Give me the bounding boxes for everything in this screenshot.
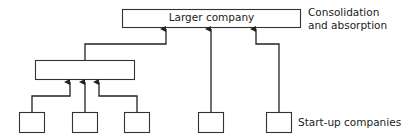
consolidation-line-2: and absorption	[308, 19, 387, 32]
startup-box	[267, 113, 292, 133]
larger-company-label: Larger company	[122, 11, 301, 23]
connector-arrow	[256, 29, 279, 112]
startup-box	[199, 113, 224, 133]
consolidation-line-1: Consolidation	[308, 6, 387, 19]
startup-box	[73, 113, 98, 133]
startups-annotation: Start-up companies	[298, 116, 401, 129]
startup-box	[20, 113, 45, 133]
startup-box	[125, 113, 150, 133]
connector-arrow	[85, 29, 166, 60]
consolidation-annotation: Consolidation and absorption	[308, 6, 387, 32]
merged-company-box	[36, 61, 135, 80]
connector-arrow	[99, 82, 137, 112]
connector-arrow	[32, 82, 70, 112]
